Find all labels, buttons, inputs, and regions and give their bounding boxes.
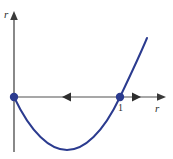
diagram-canvas: r r 1: [0, 0, 173, 159]
tick-label-one: 1: [118, 102, 123, 113]
y-axis-arrowhead-icon: [10, 11, 18, 20]
y-axis-label: r: [4, 8, 9, 20]
equilibrium-point-zero: [10, 93, 18, 101]
x-axis-arrowhead-icon: [157, 93, 166, 101]
flow-arrow-right-icon: [132, 93, 141, 102]
flow-arrow-left-icon: [62, 93, 71, 102]
x-axis-label: r: [155, 102, 160, 114]
parabola-curve: [14, 38, 147, 150]
phase-line-parabola-diagram: r r 1: [0, 0, 173, 159]
equilibrium-point-one: [116, 93, 124, 101]
